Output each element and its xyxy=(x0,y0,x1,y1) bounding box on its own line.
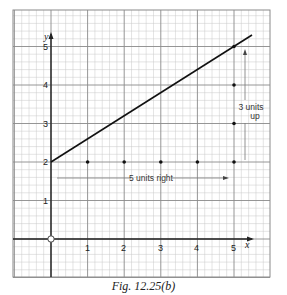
origin-marker xyxy=(48,236,54,242)
data-point xyxy=(232,45,236,49)
x-tick-2: 2 xyxy=(121,243,126,253)
y-tick-5: 5 xyxy=(43,42,48,52)
x-tick-1: 1 xyxy=(85,243,90,253)
y-tick-2: 2 xyxy=(43,157,48,167)
arrowhead-right-icon xyxy=(223,176,229,180)
data-point xyxy=(232,122,236,126)
x-tick-5: 5 xyxy=(231,243,236,253)
y-axis-arrowhead-icon xyxy=(49,32,54,39)
up-label: up xyxy=(250,111,260,121)
x-tick-4: 4 xyxy=(194,243,199,253)
y-tick-3: 3 xyxy=(43,119,48,129)
five-units-right-label: 5 units right xyxy=(129,173,174,183)
data-point xyxy=(196,160,200,164)
x-axis-label: x xyxy=(244,239,250,250)
x-tick-labels: 1 2 3 4 5 xyxy=(85,243,236,253)
graph-figure: x y 1 2 3 4 5 1 2 3 4 5 5 units right 3 … xyxy=(0,0,287,295)
x-tick-3: 3 xyxy=(158,243,163,253)
arrowhead-up-icon xyxy=(243,49,247,55)
data-point xyxy=(232,160,236,164)
data-point xyxy=(122,160,126,164)
data-point xyxy=(86,160,90,164)
y-axis-label: y xyxy=(43,31,49,42)
data-point xyxy=(159,160,163,164)
y-tick-1: 1 xyxy=(43,196,48,206)
y-tick-4: 4 xyxy=(43,80,48,90)
data-point xyxy=(232,83,236,87)
five-units-right-arrow: 5 units right xyxy=(57,173,229,183)
three-units-up-arrow: 3 units up xyxy=(238,49,263,160)
figure-caption: Fig. 12.25(b) xyxy=(0,279,287,294)
